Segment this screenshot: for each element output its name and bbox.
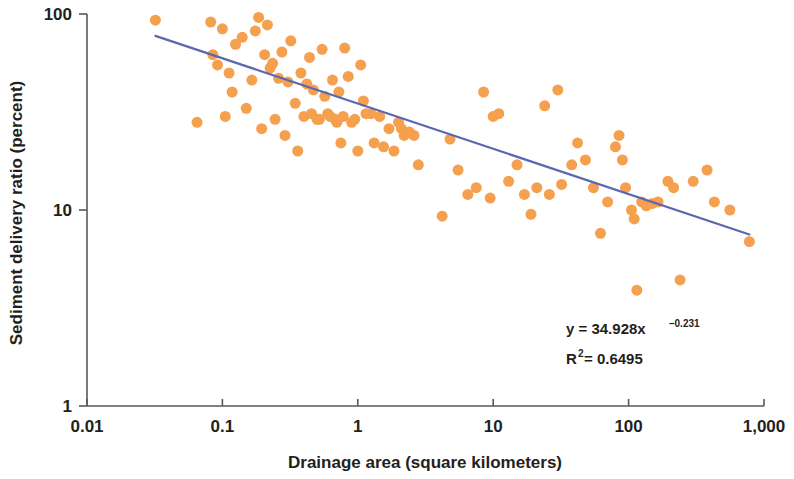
scatter-point	[471, 182, 482, 193]
scatter-point	[259, 49, 270, 60]
scatter-point	[276, 46, 287, 57]
scatter-plot: 110100 0.010.11101001,000 y = 34.928x –0…	[0, 0, 794, 479]
r-squared-value: = 0.6495	[584, 350, 643, 367]
scatter-point	[262, 19, 273, 30]
scatter-point	[355, 59, 366, 70]
scatter-point	[352, 146, 363, 157]
scatter-point	[595, 228, 606, 239]
scatter-point	[237, 32, 248, 43]
scatter-point	[317, 44, 328, 55]
scatter-point	[453, 164, 464, 175]
scatter-point	[408, 130, 419, 141]
scatter-point	[668, 182, 679, 193]
scatter-point	[744, 236, 755, 247]
y-axis-ticks	[79, 14, 87, 406]
scatter-point	[220, 111, 231, 122]
scatter-point	[724, 205, 735, 216]
scatter-point	[292, 146, 303, 157]
scatter-point	[205, 17, 216, 28]
equation-annotation: y = 34.928x –0.231 R 2 = 0.6495	[566, 318, 700, 367]
chart-figure: 110100 0.010.11101001,000 y = 34.928x –0…	[0, 0, 794, 479]
x-axis-tick-labels: 0.010.11101001,000	[70, 417, 785, 436]
scatter-point	[285, 35, 296, 46]
equation-exponent: –0.231	[669, 318, 700, 329]
scatter-point	[437, 211, 448, 222]
scatter-point	[343, 71, 354, 82]
scatter-point	[602, 196, 613, 207]
scatter-point	[413, 159, 424, 170]
y-tick-label: 1	[63, 397, 72, 416]
scatter-point	[539, 100, 550, 111]
x-tick-label: 0.01	[70, 417, 103, 436]
y-tick-label: 100	[44, 5, 72, 24]
scatter-point	[270, 114, 281, 125]
scatter-point	[327, 75, 338, 86]
scatter-point	[552, 84, 563, 95]
scatter-point	[675, 274, 686, 285]
scatter-point	[253, 12, 264, 23]
scatter-point	[241, 103, 252, 114]
x-tick-label: 10	[484, 417, 503, 436]
scatter-point	[485, 193, 496, 204]
scatter-point	[614, 130, 625, 141]
x-tick-label: 1,000	[743, 417, 786, 436]
scatter-point	[150, 15, 161, 26]
scatter-point	[339, 43, 350, 54]
x-tick-label: 0.1	[211, 417, 235, 436]
scatter-point	[369, 137, 380, 148]
scatter-point	[519, 189, 530, 200]
scatter-point	[250, 25, 261, 36]
scatter-points-group	[150, 12, 755, 296]
scatter-point	[246, 75, 257, 86]
scatter-point	[217, 23, 228, 34]
r-squared-label: R	[566, 350, 577, 367]
scatter-point	[566, 159, 577, 170]
x-tick-label: 1	[353, 417, 362, 436]
scatter-point	[290, 98, 301, 109]
x-axis-ticks	[87, 399, 764, 406]
scatter-point	[544, 189, 555, 200]
y-tick-label: 10	[53, 201, 72, 220]
y-axis-tick-labels: 110100	[44, 5, 72, 416]
scatter-point	[227, 87, 238, 98]
scatter-point	[512, 159, 523, 170]
scatter-point	[224, 68, 235, 79]
x-tick-label: 100	[614, 417, 642, 436]
scatter-point	[478, 87, 489, 98]
scatter-point	[378, 141, 389, 152]
scatter-point	[688, 176, 699, 187]
scatter-point	[709, 196, 720, 207]
scatter-point	[503, 176, 514, 187]
scatter-point	[556, 179, 567, 190]
scatter-point	[617, 154, 628, 165]
scatter-point	[349, 114, 360, 125]
x-axis-title: Drainage area (square kilometers)	[288, 453, 562, 472]
scatter-point	[212, 59, 223, 70]
scatter-point	[295, 68, 306, 79]
scatter-point	[384, 123, 395, 134]
scatter-point	[304, 52, 315, 63]
scatter-point	[531, 182, 542, 193]
scatter-point	[572, 137, 583, 148]
scatter-point	[192, 117, 203, 128]
equation-line-1: y = 34.928x	[566, 320, 646, 337]
scatter-point	[335, 137, 346, 148]
scatter-point	[525, 209, 536, 220]
scatter-point	[280, 130, 291, 141]
scatter-point	[702, 164, 713, 175]
scatter-point	[631, 285, 642, 296]
scatter-point	[493, 108, 504, 119]
scatter-point	[610, 141, 621, 152]
scatter-point	[256, 123, 267, 134]
scatter-point	[388, 146, 399, 157]
y-axis-title: Sediment delivery ratio (percent)	[7, 81, 26, 346]
scatter-point	[580, 154, 591, 165]
scatter-point	[267, 58, 278, 69]
scatter-point	[629, 213, 640, 224]
axis-lines	[87, 14, 764, 406]
trendline	[155, 36, 749, 235]
